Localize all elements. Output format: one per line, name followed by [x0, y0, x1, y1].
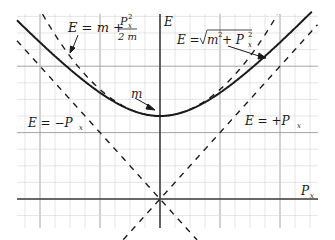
- relativistic-energy-label: E = m 2 + P x 2: [176, 30, 252, 49]
- svg-text:x: x: [297, 122, 301, 130]
- asymptote-minus-line: [17, 41, 197, 240]
- svg-text:P: P: [119, 15, 128, 28]
- svg-text:E = +P: E = +P: [244, 114, 290, 128]
- arrow-icon: [70, 35, 78, 53]
- svg-text:P: P: [300, 184, 310, 198]
- svg-text:m: m: [207, 33, 218, 47]
- svg-text:2 m: 2 m: [117, 31, 137, 42]
- svg-text:x: x: [310, 192, 314, 200]
- svg-text:+ P: + P: [222, 33, 245, 47]
- svg-text:2: 2: [128, 13, 132, 21]
- arrow-icon: [228, 46, 266, 59]
- svg-text:2: 2: [248, 31, 252, 39]
- rest-mass-label: m: [131, 87, 142, 101]
- px-axis-label: P x: [300, 184, 314, 200]
- plus-asymptote-label: E = +P x: [244, 114, 301, 130]
- classical-energy-label: E = m + P x 2 2 m: [67, 13, 137, 42]
- energy-momentum-diagram: E = m + P x 2 2 m E E = m 2 + P x 2 m E …: [0, 0, 335, 240]
- minus-asymptote-label: E = −P x: [27, 116, 83, 132]
- svg-text:E = m +: E = m +: [67, 20, 124, 35]
- svg-text:E =: E =: [176, 33, 200, 47]
- svg-text:E = −P: E = −P: [27, 116, 73, 130]
- svg-text:x: x: [248, 41, 252, 49]
- e-axis-label: E: [163, 15, 173, 29]
- svg-text:x: x: [79, 124, 83, 132]
